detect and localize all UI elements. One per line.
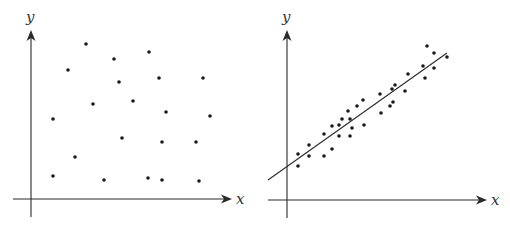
data-point <box>362 123 366 127</box>
data-point <box>201 76 205 80</box>
data-point <box>432 66 436 70</box>
right-x-axis-label: x <box>491 191 500 209</box>
data-point <box>379 111 383 115</box>
data-point <box>322 154 326 158</box>
scatter-plots-canvas: x y x y <box>0 0 510 226</box>
data-point <box>340 117 344 121</box>
data-point <box>346 109 350 113</box>
data-point <box>421 64 425 68</box>
data-point <box>322 132 326 136</box>
data-point <box>361 98 365 102</box>
right-scatter-plot-positive-correlation: x y <box>268 8 500 218</box>
left-data-points <box>51 42 212 183</box>
left-scatter-plot-no-correlation: x y <box>13 8 245 217</box>
data-point <box>337 123 341 127</box>
data-point <box>146 176 150 180</box>
data-point <box>307 143 311 147</box>
left-x-axis-label: x <box>236 190 245 208</box>
left-y-axis-label: y <box>25 8 35 26</box>
data-point <box>66 68 70 72</box>
data-point <box>403 89 407 93</box>
data-point <box>423 76 427 80</box>
data-point <box>390 87 394 91</box>
data-point <box>337 134 341 138</box>
data-point <box>432 51 436 55</box>
data-point <box>102 178 106 182</box>
data-point <box>91 102 95 106</box>
data-point <box>208 114 212 118</box>
data-point <box>51 117 55 121</box>
data-point <box>355 104 359 108</box>
data-point <box>197 179 201 183</box>
data-point <box>350 126 354 130</box>
data-point <box>296 152 300 156</box>
data-point <box>425 44 429 48</box>
data-point <box>117 80 121 84</box>
data-point <box>120 136 124 140</box>
data-point <box>445 55 449 59</box>
data-point <box>388 104 392 108</box>
data-point <box>378 92 382 96</box>
regression-line <box>268 53 447 180</box>
data-point <box>406 72 410 76</box>
data-point <box>160 178 164 182</box>
data-point <box>307 154 311 158</box>
data-point <box>164 110 168 114</box>
data-point <box>348 134 352 138</box>
data-point <box>147 50 151 54</box>
data-point <box>157 76 161 80</box>
data-point <box>51 174 55 178</box>
data-point <box>73 155 77 159</box>
data-point <box>194 140 198 144</box>
data-point <box>348 117 352 121</box>
data-point <box>160 140 164 144</box>
data-point <box>391 100 395 104</box>
right-y-axis-label: y <box>281 8 291 26</box>
data-point <box>296 164 300 168</box>
data-point <box>330 147 334 151</box>
data-point <box>393 83 397 87</box>
scatter-figure: x y x y <box>0 0 510 226</box>
data-point <box>131 99 135 103</box>
data-point <box>112 57 116 61</box>
data-point <box>330 124 334 128</box>
data-point <box>84 42 88 46</box>
